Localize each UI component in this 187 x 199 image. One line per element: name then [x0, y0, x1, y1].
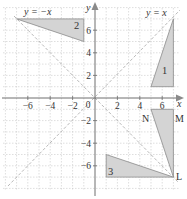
x-tick-label: −2 — [68, 101, 78, 111]
y-tick-label: 4 — [86, 48, 91, 58]
line-y-equals-neg-x — [14, 16, 178, 182]
x-tick-label: −6 — [23, 101, 33, 111]
x-tick-label: 6 — [160, 101, 165, 111]
vertex-label-m: M — [175, 113, 184, 124]
x-tick-label: 4 — [137, 101, 142, 111]
y-tick-label: 2 — [86, 71, 91, 81]
y-tick-label: 6 — [86, 26, 91, 36]
y-axis-arrow-icon — [92, 2, 99, 10]
y-axis-label: y — [85, 2, 91, 13]
line-label-y-equals-x: y = x — [145, 7, 167, 18]
vertex-label-n: N — [142, 113, 149, 124]
grid-lines — [3, 8, 180, 190]
line-label-y-equals-neg-x: y = −x — [23, 6, 52, 17]
shape-label-1: 1 — [162, 65, 167, 76]
vertex-label-l: L — [176, 171, 182, 182]
y-tick-label: −6 — [81, 161, 91, 171]
x-axis-label: x — [176, 98, 182, 109]
y-tick-label: −2 — [81, 116, 91, 126]
y-tick-label: −4 — [81, 139, 91, 149]
x-tick-label: 2 — [115, 101, 120, 111]
shape-label-2: 2 — [74, 20, 79, 31]
x-tick-label: −4 — [45, 101, 55, 111]
shape-label-3: 3 — [108, 166, 113, 177]
origin-label: 0 — [86, 100, 91, 110]
coordinate-grid: −6 −4 −2 2 4 6 6 4 2 −2 −4 −6 0 y x y = … — [0, 0, 187, 199]
